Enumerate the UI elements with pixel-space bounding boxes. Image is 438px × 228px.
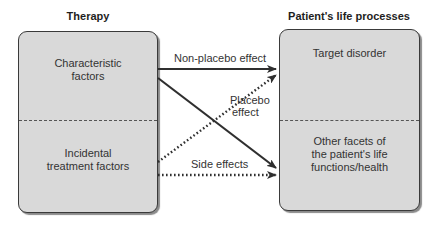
arrows-layer [0,0,438,228]
placebo-effect-arrow [158,75,276,162]
cross-arrow-characteristic-to-other [158,78,276,168]
side-effects-label: Side effects [191,158,248,170]
placebo-effect-label: Placebo effect [230,94,270,118]
placebo-effect-line1: Placebo [230,94,270,106]
non-placebo-effect-label: Non-placebo effect [174,52,266,64]
placebo-effect-line2: effect [230,106,270,118]
